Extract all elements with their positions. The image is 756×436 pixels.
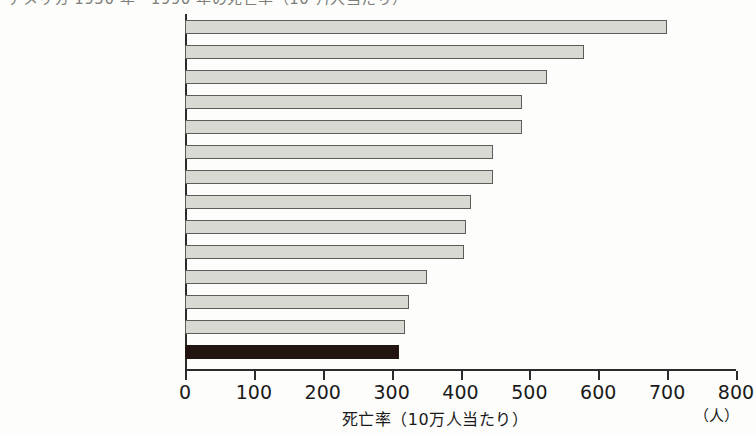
bar	[185, 120, 522, 134]
x-axis-tick-label: 800	[696, 381, 756, 403]
x-axis-tick	[254, 371, 256, 380]
bar	[185, 220, 466, 234]
bar	[185, 145, 493, 159]
plot-area: アメリカニュージーランドイギリスオーストラリアオランダオーストリアデンマークドイ…	[185, 16, 736, 368]
bar	[185, 170, 493, 184]
x-axis-tick	[529, 371, 531, 380]
bar-row: スウェーデン	[185, 316, 736, 341]
bar-row: スペイン	[185, 216, 736, 241]
bar-row: オーストリア	[185, 141, 736, 166]
x-axis-tick	[598, 371, 600, 380]
bar-chart-figure: アメリカ 1950 年・1990 年の死亡率（10 万人当たり） アメリカニュー…	[0, 0, 756, 436]
bar	[185, 195, 471, 209]
bar-row: フィンランド	[185, 291, 736, 316]
bar-row: ドイツ	[185, 191, 736, 216]
bar-row: フランス	[185, 241, 736, 266]
x-axis-tick	[392, 371, 394, 380]
bar	[185, 345, 399, 359]
x-axis-tick	[736, 371, 738, 380]
bar-row: イギリス	[185, 66, 736, 91]
bar	[185, 295, 409, 309]
bar-row: アメリカ	[185, 16, 736, 41]
bar-row: オランダ	[185, 116, 736, 141]
bar	[185, 20, 667, 34]
x-axis-tick	[461, 371, 463, 380]
bar-row: 日本	[185, 341, 736, 366]
bar-row: デンマーク	[185, 166, 736, 191]
bar	[185, 245, 464, 259]
bar	[185, 45, 584, 59]
bar	[185, 70, 547, 84]
x-axis-tick	[185, 371, 187, 380]
bar-row: オーストラリア	[185, 91, 736, 116]
x-axis-title: 死亡率（10万人当たり）	[185, 406, 685, 430]
bar	[185, 95, 522, 109]
chart-title: アメリカ 1950 年・1990 年の死亡率（10 万人当たり）	[0, 0, 756, 5]
x-axis-tick	[323, 371, 325, 380]
bar-row: ノルウェー	[185, 266, 736, 291]
x-axis-tick	[667, 371, 669, 380]
x-axis-unit: （人）	[694, 404, 739, 425]
bar-row: ニュージーランド	[185, 41, 736, 66]
bar	[185, 270, 427, 284]
bar	[185, 320, 405, 334]
